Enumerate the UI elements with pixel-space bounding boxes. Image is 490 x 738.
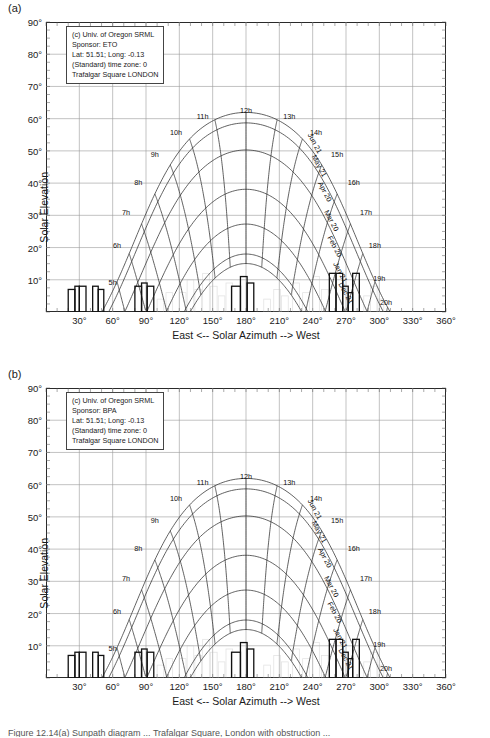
hour-label: 9h	[151, 150, 159, 159]
obstruction-bar	[247, 649, 254, 678]
x-tick-label: 30°	[72, 681, 86, 692]
y-tick-label: 10°	[28, 640, 42, 651]
y-tick-label: 40°	[28, 544, 42, 555]
obstruction-bar	[135, 652, 142, 678]
hour-label: 5h	[109, 278, 117, 287]
obstruction-bar	[93, 286, 99, 312]
info-line: Lat: 51.51; Long: -0.13	[72, 50, 158, 60]
x-tick-label: 60°	[105, 681, 119, 692]
month-label: Apr 20	[316, 546, 334, 569]
panel-b-plot-area: 5h6h7h8h9h10h11h12h13h14h15h16h17h18h19h…	[46, 388, 446, 678]
obstruction-bar	[68, 289, 75, 312]
panel-b-letter: (b)	[8, 368, 21, 380]
obstruction-bar	[93, 652, 99, 678]
hour-curve	[387, 307, 388, 311]
obstruction-bar	[79, 652, 86, 678]
obstruction-bar	[98, 289, 104, 312]
month-label: Apr 20	[316, 180, 334, 203]
y-tick-label: 60°	[28, 479, 42, 490]
x-tick-label: 90°	[139, 681, 153, 692]
y-tick-label: 40°	[28, 178, 42, 189]
month-label: Mar 20	[322, 574, 341, 598]
y-tick-label: 80°	[28, 49, 42, 60]
hour-label: 6h	[113, 241, 121, 250]
hour-label: 17h	[360, 574, 372, 583]
hour-label: 17h	[360, 208, 372, 217]
hour-label: 7h	[122, 574, 130, 583]
x-tick-label: 300°	[370, 315, 390, 326]
hour-label: 6h	[113, 607, 121, 616]
hour-label: 12h	[240, 106, 252, 115]
obstruction-bar	[75, 652, 79, 678]
x-tick-label: 360°	[436, 681, 456, 692]
obstruction-bar	[68, 655, 75, 678]
hour-curve	[190, 505, 216, 644]
hour-label: 8h	[134, 178, 142, 187]
hour-label: 13h	[283, 112, 295, 121]
panel-b-x-axis-label: East <-- Solar Azimuth --> West	[172, 695, 319, 707]
y-tick-label: 80°	[28, 415, 42, 426]
month-label: Feb 20	[326, 234, 345, 258]
obstruction-bar	[135, 286, 142, 312]
hour-label: 20h	[380, 298, 392, 307]
hour-label: 18h	[369, 607, 381, 616]
hour-label: 8h	[134, 544, 142, 553]
hour-curve	[277, 505, 303, 644]
x-tick-label: 120°	[170, 681, 190, 692]
hour-curve	[262, 486, 277, 633]
month-label: Jan 21	[331, 260, 349, 284]
panel-a-x-axis-label: East <-- Solar Azimuth --> West	[172, 329, 319, 341]
x-tick-label: 270°	[336, 681, 356, 692]
month-label: Mar 20	[322, 208, 341, 232]
x-tick-label: 150°	[203, 681, 223, 692]
y-tick-label: 20°	[28, 608, 42, 619]
hour-label: 15h	[331, 516, 343, 525]
x-tick-label: 90°	[139, 315, 153, 326]
x-tick-label: 150°	[203, 315, 223, 326]
obstruction-bar	[98, 655, 104, 678]
y-tick-label: 70°	[28, 447, 42, 458]
hour-curve	[170, 531, 201, 661]
panel-a-info-box: (c) Univ. of Oregon SRML Sponsor: ETO La…	[66, 26, 164, 84]
hour-label: 16h	[348, 544, 360, 553]
x-tick-label: 180°	[236, 681, 256, 692]
figure-caption: Figure 12.14(a) Sunpath diagram ... Traf…	[8, 728, 484, 737]
x-tick-label: 300°	[370, 681, 390, 692]
hour-label: 5h	[109, 644, 117, 653]
hour-labels: 5h6h7h8h9h10h11h12h13h14h15h16h17h18h19h…	[109, 472, 392, 673]
hour-label: 12h	[240, 472, 252, 481]
info-line: (Standard) time zone: 0	[72, 426, 158, 436]
info-line: (c) Univ. of Oregon SRML	[72, 30, 158, 40]
hour-label: 9h	[151, 516, 159, 525]
info-line: (Standard) time zone: 0	[72, 60, 158, 70]
x-tick-label: 180°	[236, 315, 256, 326]
y-tick-label: 90°	[28, 17, 42, 28]
y-tick-label: 30°	[28, 210, 42, 221]
info-line: Trafalgar Square LONDON	[72, 436, 158, 446]
hour-label: 19h	[373, 274, 385, 283]
hour-label: 15h	[331, 150, 343, 159]
info-line: (c) Univ. of Oregon SRML	[72, 396, 158, 406]
y-tick-label: 30°	[28, 576, 42, 587]
y-tick-label: 50°	[28, 145, 42, 156]
y-tick-label: 50°	[28, 511, 42, 522]
y-tick-label: 20°	[28, 242, 42, 253]
hour-curve	[387, 673, 388, 677]
hour-curve	[170, 165, 201, 295]
obstruction-bar	[79, 286, 86, 312]
month-label: Feb 20	[326, 600, 345, 624]
x-tick-label: 210°	[270, 315, 290, 326]
info-line: Trafalgar Square LONDON	[72, 70, 158, 80]
hour-label: 13h	[283, 478, 295, 487]
x-tick-label: 330°	[403, 315, 423, 326]
x-tick-label: 210°	[270, 681, 290, 692]
hour-curve	[129, 254, 145, 311]
x-tick-label: 120°	[170, 315, 190, 326]
x-tick-label: 360°	[436, 315, 456, 326]
hour-curve	[215, 486, 230, 633]
hour-label: 19h	[373, 640, 385, 649]
info-line: Lat: 51.51; Long: -0.13	[72, 416, 158, 426]
x-tick-label: 240°	[303, 681, 323, 692]
x-tick-label: 30°	[72, 315, 86, 326]
hour-label: 11h	[197, 112, 209, 121]
